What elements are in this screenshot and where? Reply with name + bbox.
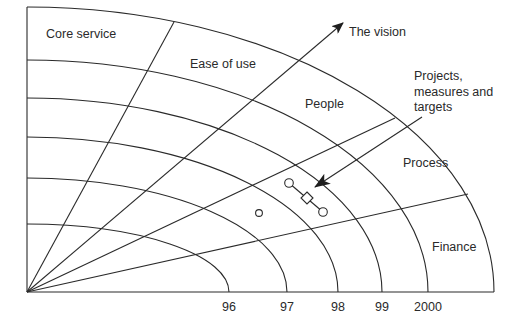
x-tick-97: 97 bbox=[280, 300, 294, 314]
x-tick-96: 96 bbox=[222, 300, 236, 314]
sector-label-finance: Finance bbox=[432, 240, 477, 254]
x-tick-98: 98 bbox=[331, 300, 345, 314]
sector-label-process: Process bbox=[403, 156, 448, 170]
x-tick-99: 99 bbox=[375, 300, 389, 314]
projects-label-line-2: measures and bbox=[414, 85, 493, 99]
projects-arrow-icon bbox=[315, 117, 422, 187]
vision-label: The vision bbox=[349, 25, 406, 39]
people-process-divider bbox=[27, 118, 395, 292]
strategy-radar-diagram: The vision Core serviceEase of usePeople… bbox=[0, 0, 524, 327]
axes bbox=[27, 7, 494, 292]
arc-96 bbox=[27, 224, 229, 292]
arc-2000 bbox=[27, 60, 428, 292]
projects-label-line-3: targets bbox=[414, 100, 452, 114]
circle-marker bbox=[256, 210, 263, 217]
arc-outer bbox=[27, 7, 494, 292]
circle-marker bbox=[319, 208, 328, 217]
core-ease-divider bbox=[27, 22, 174, 292]
sector-label-ease-of-use: Ease of use bbox=[190, 57, 256, 71]
sector-labels: Core serviceEase of usePeopleProcessFina… bbox=[46, 27, 477, 254]
sector-label-people: People bbox=[305, 97, 344, 111]
x-tick-2000: 2000 bbox=[414, 300, 442, 314]
x-axis-tick-labels: 969798992000 bbox=[222, 300, 442, 314]
process-finance-divider bbox=[27, 194, 468, 292]
year-arcs bbox=[27, 7, 494, 292]
vision-arrow-icon bbox=[27, 23, 343, 292]
circle-marker bbox=[285, 179, 294, 188]
projects-label-line-1: Projects, bbox=[414, 69, 463, 83]
sector-label-core-service: Core service bbox=[46, 27, 116, 41]
arc-97 bbox=[27, 178, 287, 292]
